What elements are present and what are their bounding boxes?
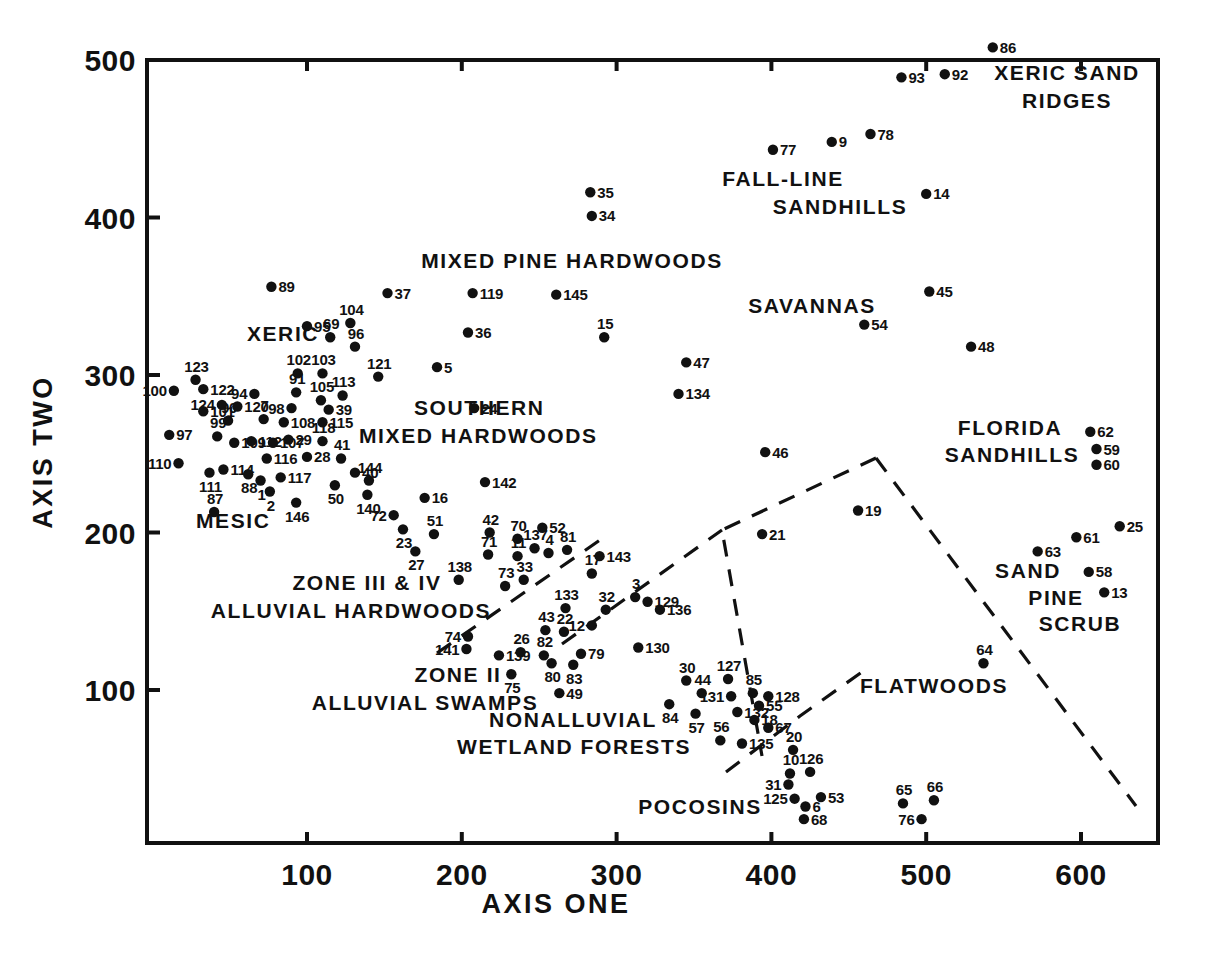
- data-point: 116: [262, 450, 298, 467]
- point-label: 34: [599, 207, 616, 224]
- data-point: 122: [198, 381, 235, 398]
- data-point: 63: [1032, 543, 1060, 560]
- point-marker: [1084, 567, 1094, 577]
- data-point: 1: [255, 475, 265, 502]
- x-tick-label: 100: [281, 858, 333, 891]
- point-label: 121: [367, 355, 391, 372]
- point-marker: [190, 375, 200, 385]
- point-label: 71: [481, 533, 497, 550]
- community-label: RIDGES: [1022, 89, 1112, 112]
- point-marker: [337, 390, 347, 400]
- point-label: 33: [517, 558, 533, 575]
- point-marker: [587, 620, 597, 630]
- point-marker: [198, 406, 208, 416]
- point-marker: [268, 438, 278, 448]
- point-label: 145: [563, 286, 587, 303]
- point-label: 77: [780, 141, 796, 158]
- data-point: 25: [1115, 518, 1143, 535]
- point-label: 146: [285, 508, 309, 525]
- point-label: 143: [607, 548, 631, 565]
- point-label: 87: [207, 490, 223, 507]
- point-marker: [519, 575, 529, 585]
- point-marker: [599, 332, 609, 342]
- community-label: XERIC SAND: [994, 61, 1140, 84]
- point-marker: [924, 286, 934, 296]
- data-point: 88: [241, 469, 257, 496]
- data-point: 46: [760, 444, 788, 461]
- data-point: 58: [1084, 563, 1112, 580]
- data-point: 145: [551, 286, 588, 303]
- community-label: POCOSINS: [638, 795, 762, 818]
- data-point: 23: [396, 524, 412, 551]
- point-label: 28: [314, 448, 330, 465]
- data-point: 89: [266, 278, 294, 295]
- point-marker: [1032, 546, 1042, 556]
- point-marker: [546, 658, 556, 668]
- point-marker: [398, 524, 408, 534]
- data-point: 86: [988, 39, 1016, 56]
- point-marker: [1091, 444, 1101, 454]
- data-point: 117: [275, 469, 311, 486]
- data-point: 43: [538, 608, 554, 635]
- point-label: 125: [763, 790, 787, 807]
- point-label: 36: [475, 324, 491, 341]
- point-marker: [169, 386, 179, 396]
- point-marker: [164, 430, 174, 440]
- data-point: 7: [258, 397, 268, 424]
- point-marker: [723, 674, 733, 684]
- data-point: 131: [700, 688, 737, 705]
- data-point: 105: [310, 378, 334, 405]
- data-point: 13: [1099, 584, 1127, 601]
- data-point: 141: [435, 641, 472, 658]
- point-label: 5: [444, 359, 452, 376]
- point-label: 47: [693, 354, 709, 371]
- point-label: 13: [1111, 584, 1127, 601]
- point-label: 118: [312, 419, 336, 436]
- point-label: 127: [717, 657, 741, 674]
- point-label: 1: [257, 486, 265, 503]
- point-label: 17: [585, 551, 601, 568]
- point-marker: [760, 447, 770, 457]
- point-label: 69: [323, 315, 339, 332]
- point-label: 134: [686, 385, 711, 402]
- point-marker: [601, 604, 611, 614]
- data-point: 97: [164, 426, 192, 443]
- ordination-scatter-figure: 100200300400500600100200300400500 869392…: [0, 0, 1206, 957]
- point-marker: [898, 798, 908, 808]
- data-point: 135: [737, 735, 774, 752]
- data-point: 119: [467, 285, 503, 302]
- point-label: 133: [554, 586, 578, 603]
- data-point: 10: [783, 751, 799, 778]
- pocosin-divider: [562, 530, 722, 644]
- community-label: FALL-LINE: [722, 167, 844, 190]
- point-label: 66: [927, 778, 943, 795]
- point-label: 79: [588, 645, 604, 662]
- point-label: 72: [370, 507, 386, 524]
- point-label: 42: [483, 511, 499, 528]
- data-point: 138: [447, 558, 471, 585]
- point-marker: [410, 546, 420, 556]
- point-marker: [799, 814, 809, 824]
- point-marker: [929, 795, 939, 805]
- point-label: 136: [667, 601, 691, 618]
- data-point: 21: [757, 526, 785, 543]
- point-label: 65: [896, 781, 912, 798]
- point-label: 141: [435, 641, 459, 658]
- point-label: 58: [1096, 563, 1112, 580]
- data-point: 72: [370, 507, 398, 524]
- point-marker: [539, 650, 549, 660]
- point-label: 54: [871, 316, 888, 333]
- point-label: 62: [1097, 423, 1113, 440]
- data-point: 32: [599, 588, 615, 615]
- point-marker: [859, 319, 869, 329]
- point-marker: [853, 505, 863, 515]
- point-label: 103: [311, 351, 335, 368]
- point-label: 116: [274, 450, 298, 467]
- point-label: 91: [289, 370, 305, 387]
- point-label: 30: [679, 659, 695, 676]
- data-point: 96: [348, 325, 364, 352]
- y-tick-label: 400: [84, 202, 136, 235]
- point-marker: [283, 434, 293, 444]
- data-point: 15: [597, 315, 613, 342]
- point-marker: [1115, 521, 1125, 531]
